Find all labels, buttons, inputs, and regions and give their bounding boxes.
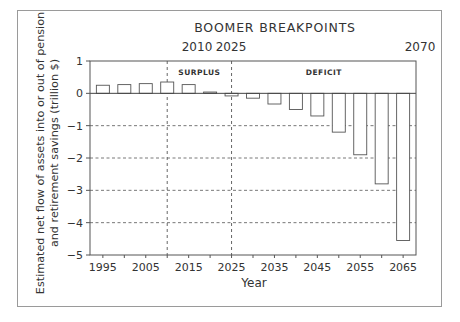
region-label-deficit: DEFICIT xyxy=(306,68,343,77)
bar xyxy=(289,93,302,109)
x-tick-label: 2065 xyxy=(389,261,417,274)
y-tick-label: −2 xyxy=(67,152,83,165)
bar xyxy=(332,93,345,132)
y-tick-label: −5 xyxy=(67,249,83,262)
x-tick-label: 2045 xyxy=(303,261,331,274)
y-tick-label: 1 xyxy=(76,55,83,68)
bar xyxy=(268,93,281,104)
x-tick-label: 2005 xyxy=(132,261,160,274)
bar-chart-plot: 10−1−2−3−4−51995200520152025203520452055… xyxy=(0,0,460,322)
bar xyxy=(96,85,109,93)
x-tick-label: 1995 xyxy=(89,261,117,274)
y-tick-label: −3 xyxy=(67,184,83,197)
bar xyxy=(247,93,260,98)
x-tick-label: 2015 xyxy=(175,261,203,274)
bar xyxy=(161,82,174,93)
x-tick-label: 2025 xyxy=(218,261,246,274)
bar xyxy=(182,85,195,94)
x-tick-label: 2055 xyxy=(346,261,374,274)
bar xyxy=(118,85,131,94)
bar xyxy=(139,84,152,94)
region-label-surplus: SURPLUS xyxy=(178,68,220,77)
x-tick-label: 2035 xyxy=(260,261,288,274)
bar xyxy=(354,93,367,154)
y-tick-label: −1 xyxy=(67,120,83,133)
y-tick-label: 0 xyxy=(76,87,83,100)
y-tick-label: −4 xyxy=(67,217,83,230)
bar xyxy=(375,93,388,184)
bar xyxy=(311,93,324,116)
bar xyxy=(397,93,410,240)
